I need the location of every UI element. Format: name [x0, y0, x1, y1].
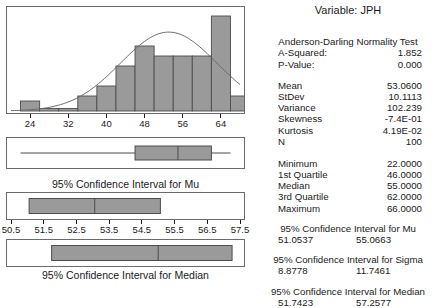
stat-value: 4.19E-02: [364, 125, 422, 136]
ci-values: 51.0537 55.0663: [252, 234, 444, 245]
ci-mu-caption: 95% Confidence Interval for Mu: [6, 178, 245, 190]
stat-label: 1st Quartile: [278, 169, 328, 180]
histogram-bar: [173, 56, 192, 111]
ci-lower-value: 51.7423: [278, 297, 313, 308]
statistics-text-column: Variable: JPH Anderson-Darling Normality…: [252, 0, 444, 287]
confidence-interval-sigma-text: 95% Confidence Interval for Sigma 8.8778…: [252, 254, 444, 276]
stat-label: Mean: [278, 80, 302, 91]
stat-label: Minimum: [278, 158, 317, 169]
histogram-bar: [116, 66, 135, 111]
stat-row: 1st Quartile 46.0000: [278, 169, 438, 180]
confidence-interval-median-text: 95% Confidence Interval for Median 51.74…: [252, 286, 444, 308]
histogram-bar: [78, 96, 97, 111]
anderson-darling-rows: A-Squared: 1.852 P-Value: 0.000: [252, 47, 444, 69]
stat-row: P-Value: 0.000: [278, 59, 438, 70]
axis-tick-label: 56.5: [198, 224, 217, 235]
stat-label: N: [278, 136, 285, 147]
stat-row: 3rd Quartile 62.0000: [278, 191, 438, 202]
axis-tick-label: 53.5: [100, 224, 119, 235]
stat-label: A-Squared:: [278, 47, 327, 58]
ci-title: 95% Confidence Interval for Median: [252, 286, 444, 297]
ci-upper-value: 11.7461: [356, 265, 390, 276]
axis-tick-label: 50.5: [2, 224, 21, 235]
stat-row: Maximum 66.0000: [278, 203, 438, 214]
variable-title: Variable: JPH: [252, 5, 444, 16]
histogram-bar: [154, 56, 173, 111]
histogram-panel: [6, 6, 245, 114]
histogram-bar: [59, 109, 78, 112]
ci-lower-value: 51.0537: [278, 234, 313, 245]
histogram-plot: [7, 7, 244, 113]
anderson-darling-title: Anderson-Darling Normality Test: [252, 36, 444, 47]
ci-mu-interval-plot: [7, 193, 244, 219]
box-iqr: [135, 146, 211, 160]
ci-upper-value: 57.2577: [356, 297, 391, 308]
quartile-statistics: Minimum 22.0000 1st Quartile 46.0000 Med…: [252, 158, 444, 214]
stat-row: Minimum 22.0000: [278, 158, 438, 169]
ci-median-panel: [6, 239, 245, 267]
stat-row: N 100: [278, 136, 438, 147]
descriptive-statistics: Mean 53.0600 StDev 10.1113 Variance 102.…: [252, 80, 444, 147]
stat-value: 1.852: [364, 47, 422, 58]
axis-tick-label: 54.5: [133, 224, 152, 235]
histogram-bar: [211, 16, 230, 111]
stat-label: Skewness: [278, 113, 322, 124]
stat-label: Maximum: [278, 203, 320, 214]
stat-value: 66.0000: [364, 203, 422, 214]
stat-value: 100: [364, 136, 422, 147]
axis-tick-label: 32: [63, 118, 74, 129]
axis-tick-label: 48: [139, 118, 150, 129]
histogram-x-axis: 243240485664: [6, 114, 245, 130]
ci-upper-value: 55.0663: [356, 234, 391, 245]
axis-tick-label: 56: [177, 118, 188, 129]
histogram-bar: [97, 86, 116, 111]
stat-row: Skewness -7.4E-01: [278, 113, 438, 124]
axis-tick-label: 64: [216, 118, 227, 129]
stat-row: Mean 53.0600: [278, 80, 438, 91]
stat-value: 10.1113: [364, 91, 422, 102]
interval-box: [52, 246, 232, 261]
stat-label: Variance: [278, 102, 316, 113]
stat-row: A-Squared: 1.852: [278, 47, 438, 58]
ci-values: 51.7423 57.2577: [252, 297, 444, 308]
axis-tick-label: 40: [101, 118, 112, 129]
stat-value: 55.0000: [364, 180, 422, 191]
stat-label: P-Value:: [278, 59, 314, 70]
stat-value: 53.0600: [364, 80, 422, 91]
stat-label: 3rd Quartile: [278, 191, 329, 202]
stat-value: 102.239: [364, 102, 422, 113]
boxplot-plot: [7, 138, 244, 168]
histogram-bar: [192, 56, 211, 111]
stat-label: Kurtosis: [278, 125, 313, 136]
confidence-interval-mu-text: 95% Confidence Interval for Mu 51.0537 5…: [252, 223, 444, 245]
ci-mu-x-axis: 50.551.552.553.554.555.556.557.5: [6, 220, 245, 236]
stat-value: 62.0000: [364, 191, 422, 202]
ci-median-interval-plot: [7, 240, 244, 266]
stat-row: Median 55.0000: [278, 180, 438, 191]
stat-label: Median: [278, 180, 310, 191]
ci-values: 8.8778 11.7461: [252, 265, 444, 276]
stat-label: StDev: [278, 91, 304, 102]
histogram-bar: [230, 96, 244, 111]
ci-mu-panel: [6, 192, 245, 220]
ci-median-caption: 95% Confidence Interval for Median: [6, 269, 245, 281]
ci-lower-value: 8.8778: [278, 265, 308, 276]
axis-tick-label: 51.5: [34, 224, 53, 235]
axis-tick-label: 52.5: [67, 224, 86, 235]
axis-tick-label: 55.5: [165, 224, 184, 235]
axis-tick-label: 57.5: [231, 224, 250, 235]
stat-row: Variance 102.239: [278, 102, 438, 113]
ci-title: 95% Confidence Interval for Sigma: [252, 254, 444, 265]
ci-title: 95% Confidence Interval for Mu: [252, 223, 444, 234]
histogram-bar: [135, 46, 154, 111]
stat-row: StDev 10.1113: [278, 91, 438, 102]
stat-value: 22.0000: [364, 158, 422, 169]
axis-tick-label: 24: [25, 118, 36, 129]
stat-value: -7.4E-01: [364, 113, 422, 124]
boxplot-panel: [6, 137, 245, 169]
stat-value: 46.0000: [364, 169, 422, 180]
stat-row: Kurtosis 4.19E-02: [278, 125, 438, 136]
stat-value: 0.000: [364, 59, 422, 70]
